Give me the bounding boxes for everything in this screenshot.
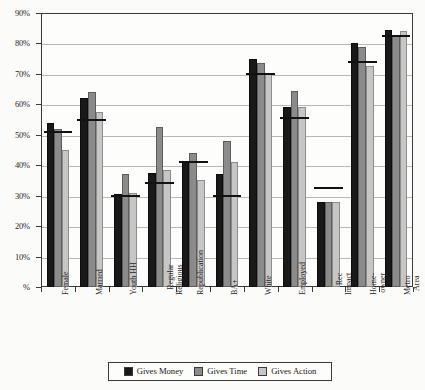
x-axis-tick bbox=[379, 287, 380, 292]
reference-line bbox=[348, 61, 377, 63]
reference-line bbox=[77, 119, 106, 121]
y-axis-label: 70% bbox=[15, 70, 30, 79]
x-axis-tick bbox=[176, 287, 177, 292]
y-axis-label: 10% bbox=[15, 253, 30, 262]
bar bbox=[88, 92, 96, 287]
legend-label: Gives Action bbox=[271, 367, 316, 376]
bar-group bbox=[283, 13, 306, 287]
reference-line bbox=[314, 187, 343, 189]
bar-group bbox=[249, 13, 272, 287]
chart-legend: Gives MoneyGives TimeGives Action bbox=[108, 362, 332, 381]
bar bbox=[54, 129, 62, 287]
bar bbox=[325, 202, 333, 287]
legend-label: Gives Time bbox=[207, 367, 247, 376]
bar bbox=[156, 127, 164, 287]
x-axis-label: Metro Area bbox=[404, 275, 421, 295]
x-axis-tick bbox=[75, 287, 76, 292]
bar bbox=[358, 47, 366, 288]
y-axis-label: 30% bbox=[15, 192, 30, 201]
bar bbox=[249, 59, 257, 287]
bar bbox=[231, 162, 239, 287]
x-axis-label: Republication bbox=[197, 250, 206, 295]
bar bbox=[257, 63, 265, 287]
bar bbox=[265, 74, 273, 287]
bar bbox=[96, 112, 104, 287]
bar bbox=[385, 30, 393, 287]
bar bbox=[400, 31, 408, 287]
bar-group bbox=[216, 13, 239, 287]
bar bbox=[47, 123, 55, 287]
y-axis-label: % bbox=[23, 283, 30, 292]
x-axis-tick bbox=[109, 287, 110, 292]
bar-group bbox=[80, 13, 103, 287]
reference-line bbox=[246, 73, 275, 75]
legend-label: Gives Money bbox=[137, 367, 184, 376]
bar bbox=[366, 66, 374, 287]
legend-item: Gives Action bbox=[258, 367, 316, 376]
x-axis-label: Youth HH bbox=[130, 262, 139, 295]
x-axis-tick bbox=[142, 287, 143, 292]
bar-groups bbox=[41, 13, 413, 287]
x-axis-tick bbox=[278, 287, 279, 292]
reference-line bbox=[179, 161, 208, 163]
x-axis-tick bbox=[244, 287, 245, 292]
bar bbox=[223, 141, 231, 287]
y-axis-label: 50% bbox=[15, 131, 30, 140]
chart-container: Black line represents proportion in samp… bbox=[0, 0, 425, 390]
bar-group bbox=[385, 13, 408, 287]
reference-line bbox=[280, 117, 309, 119]
x-axis-tick bbox=[345, 287, 346, 292]
bar bbox=[114, 194, 122, 287]
y-axis-label: 20% bbox=[15, 222, 30, 231]
x-axis-tick bbox=[312, 287, 313, 292]
reference-line bbox=[213, 195, 242, 197]
bar-group bbox=[47, 13, 70, 287]
bar bbox=[62, 150, 70, 287]
x-axis-tick bbox=[210, 287, 211, 292]
x-axis-label: BA+ bbox=[231, 279, 240, 295]
reference-line bbox=[44, 131, 73, 133]
x-axis-tick bbox=[41, 287, 42, 292]
bar bbox=[216, 174, 224, 287]
x-axis-label: Married bbox=[96, 269, 105, 295]
x-axis-label: Female bbox=[62, 271, 71, 295]
bar bbox=[298, 107, 306, 287]
bar bbox=[283, 107, 291, 287]
reference-line bbox=[111, 195, 140, 197]
bar bbox=[80, 98, 88, 287]
legend-swatch bbox=[194, 367, 203, 376]
x-axis-label: White bbox=[265, 275, 274, 295]
bar-group bbox=[148, 13, 171, 287]
legend-swatch bbox=[124, 367, 133, 376]
bar bbox=[392, 36, 400, 287]
bar bbox=[317, 202, 325, 287]
y-axis-label: 90% bbox=[15, 9, 30, 18]
y-axis-label: 60% bbox=[15, 100, 30, 109]
bar bbox=[291, 91, 299, 287]
bar-group bbox=[351, 13, 374, 287]
bar-group bbox=[182, 13, 205, 287]
reference-line bbox=[382, 35, 411, 37]
x-axis-tick bbox=[413, 287, 414, 292]
y-axis-label: 80% bbox=[15, 39, 30, 48]
bar bbox=[148, 173, 156, 287]
reference-line bbox=[145, 182, 174, 184]
bar bbox=[351, 43, 359, 287]
bar-group bbox=[317, 13, 340, 287]
x-axis-label: Employed bbox=[299, 262, 308, 295]
legend-item: Gives Time bbox=[194, 367, 247, 376]
bar-group bbox=[114, 13, 137, 287]
legend-item: Gives Money bbox=[124, 367, 184, 376]
y-axis-label: 40% bbox=[15, 161, 30, 170]
legend-swatch bbox=[258, 367, 267, 376]
